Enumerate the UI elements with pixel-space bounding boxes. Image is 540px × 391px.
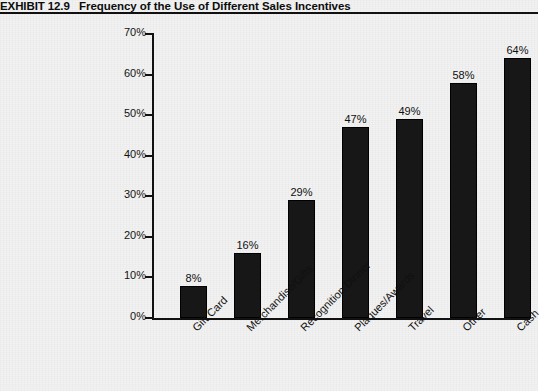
y-axis-tick-label: 60% bbox=[124, 67, 146, 79]
y-axis-tick-label: 10% bbox=[124, 269, 146, 281]
y-axis-tick-label: 30% bbox=[124, 188, 146, 200]
y-axis-tick-label: 20% bbox=[124, 229, 146, 241]
y-axis-tick-mark bbox=[145, 236, 154, 238]
y-axis-tick-mark bbox=[145, 114, 154, 116]
bar-chart: 0%10%20%30%40%50%60%70% 8%16%29%47%49%58… bbox=[0, 14, 538, 391]
bar bbox=[234, 253, 261, 318]
bar-value-label: 58% bbox=[441, 69, 486, 81]
bar bbox=[288, 200, 315, 318]
exhibit-number-label: EXHIBIT 12.9 bbox=[0, 0, 70, 12]
bar-value-label: 47% bbox=[333, 113, 378, 125]
bar-value-label: 16% bbox=[225, 239, 270, 251]
exhibit-title: Frequency of the Use of Different Sales … bbox=[79, 0, 351, 12]
y-axis-tick-label: 70% bbox=[124, 26, 146, 38]
bar bbox=[504, 58, 531, 318]
bar-value-label: 64% bbox=[495, 44, 540, 56]
bar-value-label: 29% bbox=[279, 186, 324, 198]
y-axis-tick-mark bbox=[145, 276, 154, 278]
y-axis-tick-label: 0% bbox=[130, 310, 146, 322]
y-axis-tick-label: 40% bbox=[124, 148, 146, 160]
y-axis-tick-label: 50% bbox=[124, 107, 146, 119]
bar-value-label: 49% bbox=[387, 105, 432, 117]
y-axis-tick-mark bbox=[145, 74, 154, 76]
y-axis-tick-mark bbox=[145, 155, 154, 157]
bar bbox=[450, 83, 477, 318]
y-axis-tick-mark bbox=[145, 317, 154, 319]
y-axis-tick-mark bbox=[145, 195, 154, 197]
y-axis-tick-mark bbox=[145, 33, 154, 35]
plot-area: 0%10%20%30%40%50%60%70% 8%16%29%47%49%58… bbox=[152, 34, 530, 318]
bar-value-label: 8% bbox=[171, 272, 216, 284]
